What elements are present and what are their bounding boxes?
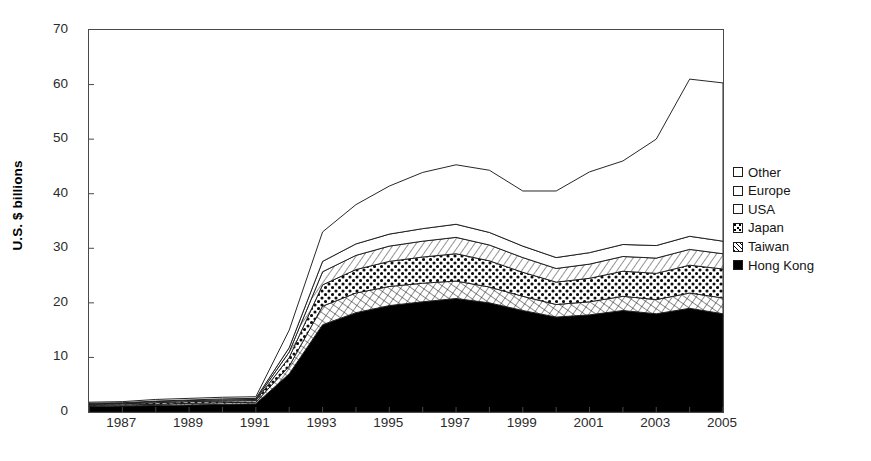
x-tick-label: 1987 <box>106 416 136 430</box>
x-tick-label: 1989 <box>173 416 203 430</box>
y-tick-label: 50 <box>34 131 68 145</box>
legend-label: Europe <box>748 184 791 197</box>
stacked-area-series <box>89 30 723 412</box>
legend-swatch-icon <box>733 167 743 177</box>
chart-figure: U.S. $ billions 706050403020100 <box>0 0 871 461</box>
plot-area <box>88 29 724 413</box>
legend-swatch-icon <box>733 242 743 252</box>
y-tick-label: 70 <box>34 22 68 36</box>
x-tick-label: 1993 <box>307 416 337 430</box>
legend-item-europe[interactable]: Europe <box>733 182 867 201</box>
x-tick-label: 1997 <box>440 416 470 430</box>
y-tick-label: 40 <box>34 186 68 200</box>
x-tick-label: 1999 <box>507 416 537 430</box>
area-series-hong-kong <box>89 298 723 412</box>
chart-legend: OtherEuropeUSAJapanTaiwanHong Kong <box>733 163 867 275</box>
legend-item-other[interactable]: Other <box>733 163 867 182</box>
legend-item-japan[interactable]: Japan <box>733 219 867 238</box>
x-tick-label: 2005 <box>707 416 737 430</box>
y-axis-title-text: U.S. $ billions <box>10 160 25 250</box>
y-tick-label: 30 <box>34 240 68 254</box>
legend-item-taiwan[interactable]: Taiwan <box>733 237 867 256</box>
x-axis-tick-labels: 1987198919911993199519971999200120032005 <box>88 416 724 442</box>
legend-label: Japan <box>748 221 784 234</box>
legend-label: Taiwan <box>748 240 789 253</box>
legend-label: Other <box>748 166 781 179</box>
y-axis-title: U.S. $ billions <box>4 0 30 411</box>
x-tick-label: 1995 <box>373 416 403 430</box>
legend-swatch-icon <box>733 223 743 233</box>
legend-item-usa[interactable]: USA <box>733 200 867 219</box>
legend-swatch-icon <box>733 186 743 196</box>
x-tick-label: 1991 <box>240 416 270 430</box>
x-tick-label: 2003 <box>640 416 670 430</box>
legend-swatch-icon <box>733 204 743 214</box>
legend-label: Hong Kong <box>748 259 814 272</box>
legend-swatch-icon <box>733 260 743 270</box>
y-tick-label: 60 <box>34 77 68 91</box>
legend-item-hong-kong[interactable]: Hong Kong <box>733 256 867 275</box>
y-tick-label: 20 <box>34 295 68 309</box>
x-tick-label: 2001 <box>573 416 603 430</box>
y-axis-tick-labels: 706050403020100 <box>28 0 68 461</box>
legend-label: USA <box>748 203 775 216</box>
y-tick-label: 0 <box>34 404 68 418</box>
y-tick-label: 10 <box>34 349 68 363</box>
